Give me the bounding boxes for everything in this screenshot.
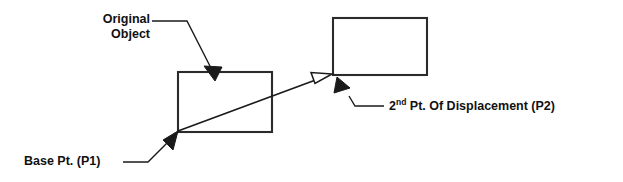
original-object-leader-arrowhead [204, 66, 222, 81]
diagram-canvas: Original Object Base Pt. (P1) 2nd Pt. Of… [0, 0, 623, 182]
original-object-label-line1: Original [103, 12, 150, 26]
destination-rectangle [333, 18, 427, 75]
displacement-hollow-arrowhead [311, 73, 332, 84]
second-point-leader-arrowhead [334, 77, 350, 93]
second-point-label-prefix: 2 [389, 99, 396, 113]
original-object-label-line2: Object [111, 27, 150, 41]
displacement-vector-line [178, 77, 325, 132]
base-point-leader-arrowhead [163, 131, 178, 150]
second-point-label-superscript: nd [396, 97, 406, 107]
original-object-leader-line [152, 21, 213, 72]
base-point-label: Base Pt. (P1) [24, 154, 100, 169]
second-point-label: 2nd Pt. Of Displacement (P2) [389, 95, 555, 114]
original-object-label: Original Object [62, 12, 150, 42]
second-point-leader-line [349, 96, 384, 106]
base-point-leader-line [123, 142, 168, 162]
second-point-label-suffix: Pt. Of Displacement (P2) [406, 99, 555, 113]
